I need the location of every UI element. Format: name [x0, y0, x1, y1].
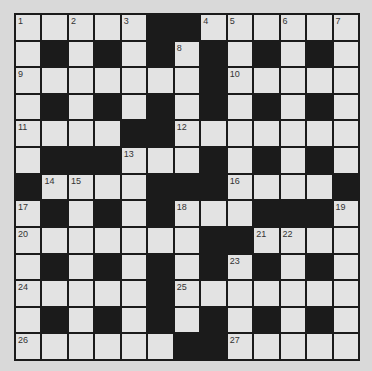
- grid-cell[interactable]: [16, 148, 40, 173]
- grid-cell[interactable]: [122, 42, 146, 67]
- grid-cell[interactable]: [122, 68, 146, 93]
- grid-cell[interactable]: [307, 175, 331, 200]
- grid-cell[interactable]: [95, 15, 119, 40]
- grid-cell[interactable]: [228, 42, 252, 67]
- grid-cell[interactable]: [95, 175, 119, 200]
- grid-cell[interactable]: 10: [228, 68, 252, 93]
- grid-cell[interactable]: [122, 281, 146, 306]
- grid-cell[interactable]: [334, 228, 358, 253]
- grid-cell[interactable]: [281, 334, 305, 359]
- grid-cell[interactable]: [175, 228, 199, 253]
- grid-cell[interactable]: [281, 281, 305, 306]
- grid-cell[interactable]: [122, 255, 146, 280]
- grid-cell[interactable]: [228, 121, 252, 146]
- grid-cell[interactable]: [16, 308, 40, 333]
- grid-cell[interactable]: 20: [16, 228, 40, 253]
- grid-cell[interactable]: [69, 334, 93, 359]
- grid-cell[interactable]: [334, 281, 358, 306]
- grid-cell[interactable]: [42, 281, 66, 306]
- grid-cell[interactable]: [122, 201, 146, 226]
- grid-cell[interactable]: [281, 255, 305, 280]
- grid-cell[interactable]: 3: [122, 15, 146, 40]
- grid-cell[interactable]: [95, 228, 119, 253]
- grid-cell[interactable]: [69, 281, 93, 306]
- grid-cell[interactable]: [254, 281, 278, 306]
- grid-cell[interactable]: [254, 175, 278, 200]
- grid-cell[interactable]: [175, 308, 199, 333]
- grid-cell[interactable]: [42, 121, 66, 146]
- grid-cell[interactable]: [307, 15, 331, 40]
- grid-cell[interactable]: 16: [228, 175, 252, 200]
- grid-cell[interactable]: [122, 334, 146, 359]
- grid-cell[interactable]: 1: [16, 15, 40, 40]
- grid-cell[interactable]: 4: [201, 15, 225, 40]
- grid-cell[interactable]: [307, 281, 331, 306]
- grid-cell[interactable]: [334, 334, 358, 359]
- grid-cell[interactable]: [201, 201, 225, 226]
- grid-cell[interactable]: [334, 148, 358, 173]
- grid-cell[interactable]: [228, 95, 252, 120]
- grid-cell[interactable]: [69, 228, 93, 253]
- grid-cell[interactable]: [16, 95, 40, 120]
- grid-cell[interactable]: [228, 308, 252, 333]
- grid-cell[interactable]: [254, 68, 278, 93]
- grid-cell[interactable]: 7: [334, 15, 358, 40]
- grid-cell[interactable]: 24: [16, 281, 40, 306]
- grid-cell[interactable]: [122, 95, 146, 120]
- grid-cell[interactable]: 9: [16, 68, 40, 93]
- grid-cell[interactable]: [334, 308, 358, 333]
- grid-cell[interactable]: 14: [42, 175, 66, 200]
- grid-cell[interactable]: [201, 121, 225, 146]
- grid-cell[interactable]: [69, 201, 93, 226]
- grid-cell[interactable]: [42, 15, 66, 40]
- grid-cell[interactable]: [228, 148, 252, 173]
- grid-cell[interactable]: 22: [281, 228, 305, 253]
- grid-cell[interactable]: [334, 68, 358, 93]
- grid-cell[interactable]: [307, 121, 331, 146]
- grid-cell[interactable]: [69, 68, 93, 93]
- grid-cell[interactable]: [175, 95, 199, 120]
- grid-cell[interactable]: [69, 121, 93, 146]
- grid-cell[interactable]: [281, 95, 305, 120]
- grid-cell[interactable]: 6: [281, 15, 305, 40]
- grid-cell[interactable]: [281, 121, 305, 146]
- grid-cell[interactable]: [307, 68, 331, 93]
- grid-cell[interactable]: [69, 42, 93, 67]
- grid-cell[interactable]: [254, 121, 278, 146]
- grid-cell[interactable]: [201, 281, 225, 306]
- grid-cell[interactable]: [334, 121, 358, 146]
- grid-cell[interactable]: [175, 255, 199, 280]
- grid-cell[interactable]: 8: [175, 42, 199, 67]
- grid-cell[interactable]: [69, 95, 93, 120]
- grid-cell[interactable]: 23: [228, 255, 252, 280]
- grid-cell[interactable]: 2: [69, 15, 93, 40]
- grid-cell[interactable]: [16, 42, 40, 67]
- grid-cell[interactable]: 27: [228, 334, 252, 359]
- grid-cell[interactable]: [69, 308, 93, 333]
- grid-cell[interactable]: 15: [69, 175, 93, 200]
- grid-cell[interactable]: [254, 15, 278, 40]
- grid-cell[interactable]: [148, 228, 172, 253]
- grid-cell[interactable]: [334, 255, 358, 280]
- grid-cell[interactable]: [95, 68, 119, 93]
- grid-cell[interactable]: [95, 121, 119, 146]
- grid-cell[interactable]: [307, 334, 331, 359]
- grid-cell[interactable]: [42, 334, 66, 359]
- grid-cell[interactable]: 11: [16, 121, 40, 146]
- grid-cell[interactable]: [175, 68, 199, 93]
- grid-cell[interactable]: [228, 201, 252, 226]
- grid-cell[interactable]: [281, 148, 305, 173]
- grid-cell[interactable]: [95, 334, 119, 359]
- grid-cell[interactable]: [122, 228, 146, 253]
- grid-cell[interactable]: 26: [16, 334, 40, 359]
- grid-cell[interactable]: [334, 95, 358, 120]
- grid-cell[interactable]: [148, 334, 172, 359]
- grid-cell[interactable]: 13: [122, 148, 146, 173]
- grid-cell[interactable]: [307, 228, 331, 253]
- grid-cell[interactable]: [148, 148, 172, 173]
- grid-cell[interactable]: 12: [175, 121, 199, 146]
- grid-cell[interactable]: [42, 228, 66, 253]
- grid-cell[interactable]: [148, 68, 172, 93]
- grid-cell[interactable]: [95, 281, 119, 306]
- grid-cell[interactable]: [122, 175, 146, 200]
